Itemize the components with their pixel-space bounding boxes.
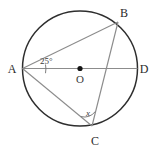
center-point-dot <box>77 66 82 71</box>
angle-label-x: x <box>85 108 90 118</box>
segment-b-c <box>92 22 118 126</box>
vertex-label-a: A <box>8 62 17 76</box>
vertex-label-b: B <box>120 6 128 20</box>
angle-label-25-degrees: 25° <box>40 56 53 66</box>
center-label-o: O <box>76 73 84 85</box>
geometry-canvas: A B C D O 25° x <box>0 0 160 151</box>
segment-a-b <box>23 22 119 69</box>
vertex-label-c: C <box>91 134 99 148</box>
geometry-diagram: A B C D O 25° x <box>0 0 160 151</box>
vertex-label-d: D <box>140 62 149 76</box>
